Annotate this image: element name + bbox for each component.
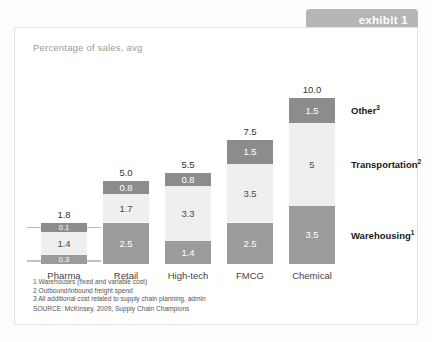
bar-segment-warehousing: 1.4 [165, 241, 211, 264]
bar-segment-warehousing: 2.5 [227, 223, 273, 265]
stacked-bar[interactable]: 0.81.72.5 [103, 181, 149, 264]
source-line: SOURCE: McKinsey, 2009, Supply Chain Cha… [33, 305, 393, 314]
bar-segment-other: 0.8 [103, 181, 149, 194]
bar-total-label: 10.0 [289, 84, 335, 95]
bar-segment-warehousing: 2.5 [103, 223, 149, 265]
bar-segment-transportation: 5 [289, 123, 335, 206]
bar-segment-warehousing: 3.5 [289, 206, 335, 264]
bar-column-high-tech[interactable]: 0.83.31.45.5 [157, 28, 219, 264]
bar-column-pharma[interactable]: 0.11.40.31.8 [33, 28, 95, 264]
exhibit-card: Percentage of sales, avg Pharma0.11.40.3… [14, 27, 418, 325]
bar-total-label: 7.5 [227, 126, 273, 137]
footnote-2: 2 Outbound/inbound freight spend [33, 287, 393, 296]
stacked-bar[interactable]: 1.53.52.5 [227, 140, 273, 265]
bar-total-label: 5.0 [103, 167, 149, 178]
footnote-1: 1 Warehouses (fixed and variable cost) [33, 278, 393, 287]
series-label-text: Other [351, 106, 376, 117]
pharma-connector-left-warehousing [27, 260, 41, 262]
bar-total-label: 1.8 [41, 209, 87, 220]
bar-segment-warehousing: 0.3 [41, 255, 87, 264]
bar-segment-other: 1.5 [289, 98, 335, 123]
series-label-footnote-marker: 2 [418, 158, 422, 165]
pharma-connector-left-other [27, 227, 41, 228]
bar-total-label: 5.5 [165, 159, 211, 170]
exhibit-root: exhibit 1 Percentage of sales, avg Pharm… [0, 0, 432, 342]
bar-segment-other: 0.8 [165, 173, 211, 186]
bar-column-chemical[interactable]: 1.553.510.0 [281, 28, 343, 264]
stacked-bar[interactable]: 0.11.40.3 [41, 223, 87, 264]
footnote-3: 3 All additional cost related to supply … [33, 295, 393, 304]
bar-segment-other: 1.5 [227, 140, 273, 165]
stacked-bar[interactable]: 1.553.5 [289, 98, 335, 264]
bar-column-fmcg[interactable]: 1.53.52.57.5 [219, 28, 281, 264]
bar-segment-transportation: 3.5 [227, 164, 273, 222]
series-label-footnote-marker: 1 [411, 229, 415, 236]
stacked-bar[interactable]: 0.83.31.4 [165, 173, 211, 264]
exhibit-label: exhibit 1 [359, 14, 408, 26]
bar-segment-other: 0.1 [41, 223, 87, 232]
bar-column-retail[interactable]: 0.81.72.55.0 [95, 28, 157, 264]
series-label-text: Transportation [351, 160, 418, 171]
footnotes-block: 1 Warehouses (fixed and variable cost) 2… [33, 278, 393, 314]
series-label-other: Other3 [351, 104, 380, 116]
series-label-transportation: Transportation2 [351, 158, 421, 170]
bar-segment-transportation: 3.3 [165, 186, 211, 241]
series-label-warehousing: Warehousing1 [351, 229, 414, 241]
bar-segment-transportation: 1.7 [103, 194, 149, 222]
series-label-text: Warehousing [351, 230, 411, 241]
series-label-footnote-marker: 3 [376, 104, 380, 111]
bar-segment-transportation: 1.4 [41, 232, 87, 255]
